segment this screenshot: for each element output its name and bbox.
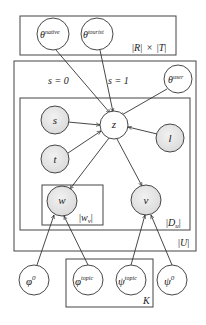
plate-label-words: |wv| — [79, 212, 93, 225]
edge-label-s1: s = 1 — [108, 75, 129, 86]
plate-label-users: |U| — [178, 237, 189, 248]
plate-label-docs: |Du| — [166, 217, 181, 230]
edge-label-s0: s = 0 — [48, 75, 69, 86]
label-s: s — [53, 114, 57, 126]
label-z: z — [111, 118, 117, 130]
graphical-model-diagram: ||R|R| × |T| |U| |Du| |wv| K s = 0 s = 1 — [0, 0, 206, 325]
label-w: w — [58, 194, 66, 206]
plate-label-rt: ||R|R| × |T| — [132, 42, 166, 53]
plate-label-topics: K — [142, 295, 151, 306]
label-l: l — [168, 132, 171, 144]
label-v: v — [144, 194, 149, 206]
